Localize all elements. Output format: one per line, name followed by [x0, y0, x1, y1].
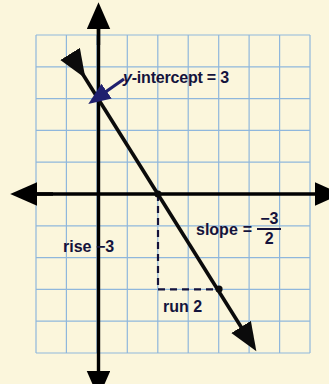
slope-label-word: slope [196, 222, 238, 238]
slope-label: slope = −3 2 [196, 212, 281, 248]
point-x-intercept [154, 190, 161, 197]
run-label: run 2 [163, 299, 202, 315]
rise-label: rise −3 [63, 239, 114, 255]
slope-denominator: 2 [262, 230, 277, 247]
graph-figure: y-intercept = 3 rise −3 run 2 slope = −3… [0, 0, 329, 384]
point-y-intercept [95, 92, 103, 100]
slope-numerator: −3 [257, 211, 281, 228]
slope-label-equals: = [243, 222, 252, 238]
y-intercept-label-variable: y [123, 69, 132, 86]
point-run-end [215, 285, 222, 292]
slope-fraction: −3 2 [257, 211, 281, 247]
y-intercept-label-text: -intercept = 3 [132, 69, 229, 86]
y-intercept-label: y-intercept = 3 [123, 70, 229, 86]
coordinate-plane [0, 0, 329, 384]
